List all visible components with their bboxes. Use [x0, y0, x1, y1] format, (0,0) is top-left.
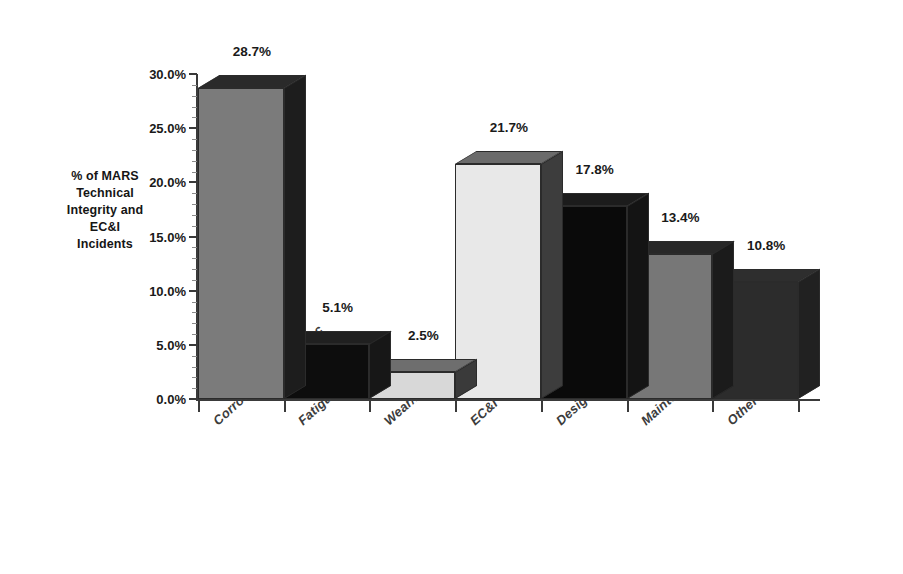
x-axis-tick	[198, 401, 200, 412]
y-axis-minor-tick	[192, 204, 197, 205]
y-axis-minor-tick	[192, 388, 197, 389]
x-axis-tick	[798, 401, 800, 412]
y-axis-minor-tick	[192, 334, 197, 335]
bar-front-face	[198, 88, 284, 399]
y-axis-tick	[189, 127, 197, 129]
bar-value-label: 28.7%	[233, 44, 271, 59]
y-axis-minor-tick	[192, 139, 197, 140]
y-axis-minor-tick	[192, 226, 197, 227]
x-axis-line	[196, 399, 820, 401]
y-axis-tick-label: 20.0%	[149, 175, 186, 190]
x-axis-tick	[627, 401, 629, 412]
y-axis-tick-label: 15.0%	[149, 229, 186, 244]
bar-side-face	[284, 88, 306, 399]
x-axis-tick	[541, 401, 543, 412]
bar-value-label: 2.5%	[408, 328, 439, 343]
y-axis-minor-tick	[192, 150, 197, 151]
y-axis-tick	[189, 181, 197, 183]
bar-value-label: 5.1%	[322, 300, 353, 315]
y-axis-minor-tick	[192, 117, 197, 118]
bar-series: 28.7%5.1%2.5%21.7%17.8%13.4%10.8%	[198, 60, 820, 399]
y-axis-tick-label: 0.0%	[156, 392, 186, 407]
y-axis-minor-tick	[192, 193, 197, 194]
bar-side-face	[627, 206, 649, 399]
y-axis-minor-tick	[192, 312, 197, 313]
y-axis-tick	[189, 344, 197, 346]
y-axis-minor-tick	[192, 377, 197, 378]
y-axis-minor-tick	[192, 258, 197, 259]
y-axis-title-line-3: Integrity and	[40, 202, 170, 219]
y-axis-tick-label: 10.0%	[149, 283, 186, 298]
bar-side-face	[798, 282, 820, 399]
y-axis-minor-tick	[192, 96, 197, 97]
y-axis-tick-label: 5.0%	[156, 337, 186, 352]
y-axis-minor-tick	[192, 247, 197, 248]
y-axis-tick	[189, 73, 197, 75]
bar-value-label: 21.7%	[490, 120, 528, 135]
y-axis-minor-tick	[192, 85, 197, 86]
x-axis-tick	[284, 401, 286, 412]
y-axis-tick-label: 30.0%	[149, 67, 186, 82]
bar-top-face	[455, 151, 541, 164]
y-axis-minor-tick	[192, 356, 197, 357]
y-axis-minor-tick	[192, 161, 197, 162]
y-axis-tick	[189, 398, 197, 400]
y-axis-minor-tick	[192, 269, 197, 270]
bar-side-face	[541, 164, 563, 399]
y-axis-tick	[189, 290, 197, 292]
bar-side-face	[712, 254, 734, 399]
y-axis-minor-tick	[192, 302, 197, 303]
plot-area: 0.0%5.0%10.0%15.0%20.0%25.0%30.0% 28.7%5…	[196, 60, 820, 400]
x-axis-tick	[455, 401, 457, 412]
bar-value-label: 10.8%	[747, 238, 785, 253]
bar-chart: % of MARS Technical Integrity and EC&I I…	[0, 0, 903, 574]
y-axis-minor-tick	[192, 215, 197, 216]
y-axis-minor-tick	[192, 172, 197, 173]
y-axis-minor-tick	[192, 107, 197, 108]
y-axis-minor-tick	[192, 280, 197, 281]
bar-side-face	[369, 344, 391, 399]
bar-value-label: 13.4%	[661, 210, 699, 225]
bar-value-label: 17.8%	[576, 162, 614, 177]
x-axis-tick	[369, 401, 371, 412]
bar-side-face	[455, 372, 477, 399]
x-axis-tick	[712, 401, 714, 412]
y-axis-tick	[189, 236, 197, 238]
y-axis-minor-tick	[192, 367, 197, 368]
y-axis-tick-label: 25.0%	[149, 121, 186, 136]
y-axis-minor-tick	[192, 323, 197, 324]
bar-top-face	[198, 75, 284, 88]
bar-corrosion-erosion-scc[interactable]: 28.7%	[198, 88, 284, 399]
